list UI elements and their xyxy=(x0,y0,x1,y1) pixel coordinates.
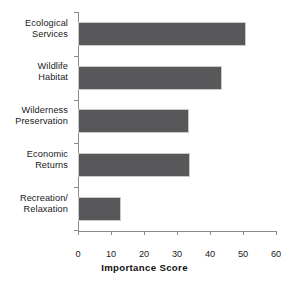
y-axis-tick xyxy=(74,187,78,188)
x-axis-tick-label: 30 xyxy=(162,249,192,260)
category-label-line: Wildlife xyxy=(0,61,68,72)
bar-chart: Ecological Services Wildlife Habitat Wil… xyxy=(0,0,289,289)
category-label-line: Returns xyxy=(0,160,68,171)
x-axis-tick-label: 60 xyxy=(261,249,289,260)
y-axis-tick xyxy=(74,100,78,101)
bar-ecological-services[interactable] xyxy=(78,22,246,46)
bar-economic-returns[interactable] xyxy=(78,153,190,177)
x-axis-tick xyxy=(243,231,244,235)
x-axis-tick-label: 20 xyxy=(129,249,159,260)
category-axis-labels: Ecological Services Wildlife Habitat Wil… xyxy=(0,12,72,231)
category-label-wilderness-preservation: Wilderness Preservation xyxy=(0,105,68,127)
category-label-line: Wilderness xyxy=(0,105,68,116)
y-axis-tick xyxy=(74,56,78,57)
category-label-wildlife-habitat: Wildlife Habitat xyxy=(0,61,68,83)
x-axis-tick xyxy=(210,231,211,235)
bar-wilderness-preservation[interactable] xyxy=(78,109,189,133)
x-axis-tick xyxy=(276,231,277,235)
bar-recreation-relaxation[interactable] xyxy=(78,197,121,221)
category-label-line: Recreation/ xyxy=(0,193,68,204)
category-label-recreation-relaxation: Recreation/ Relaxation xyxy=(0,193,68,215)
y-axis-tick xyxy=(74,143,78,144)
category-label-line: Habitat xyxy=(0,72,68,83)
x-axis-tick-label: 40 xyxy=(195,249,225,260)
category-label-line: Economic xyxy=(0,149,68,160)
x-axis-tick xyxy=(177,231,178,235)
x-axis-tick xyxy=(144,231,145,235)
bar-wildlife-habitat[interactable] xyxy=(78,66,222,90)
x-axis-title: Importance Score xyxy=(0,262,289,273)
plot-area: 0 10 20 30 40 50 60 xyxy=(78,12,276,231)
category-label-line: Ecological xyxy=(0,18,68,29)
x-axis-tick xyxy=(111,231,112,235)
category-label-line: Services xyxy=(0,29,68,40)
category-label-line: Preservation xyxy=(0,116,68,127)
x-axis-tick-label: 10 xyxy=(96,249,126,260)
category-label-ecological-services: Ecological Services xyxy=(0,18,68,40)
x-axis-tick-label: 0 xyxy=(63,249,93,260)
category-label-line: Relaxation xyxy=(0,204,68,215)
x-axis-tick xyxy=(78,231,79,235)
category-label-economic-returns: Economic Returns xyxy=(0,149,68,171)
y-axis-tick xyxy=(74,12,78,13)
x-axis-tick-label: 50 xyxy=(228,249,258,260)
